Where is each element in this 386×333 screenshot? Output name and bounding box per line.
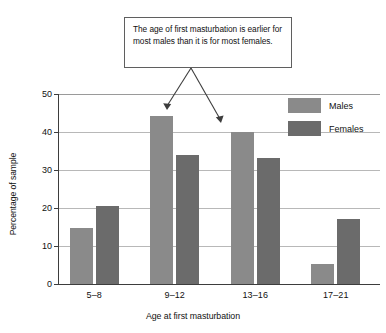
bar-females-9-12: [176, 155, 199, 284]
legend-swatch-females: [288, 121, 321, 136]
x-tick-label-9-12: 9–12: [145, 290, 205, 300]
x-axis-title: Age at first masturbation: [0, 311, 386, 321]
y-axis-title: Percentage of sample: [8, 129, 18, 259]
x-tick-label-17-21: 17–21: [306, 290, 366, 300]
callout-annotation-box: The age of first masturbation is earlier…: [124, 17, 292, 68]
x-tick-label-5-8: 5–8: [64, 290, 124, 300]
y-tick-label-10: 10: [26, 241, 52, 251]
gridline-30: [58, 170, 380, 171]
bar-females-5-8: [96, 206, 119, 284]
legend-item-females: Females: [288, 121, 364, 136]
y-tick-label-30: 30: [26, 165, 52, 175]
legend-label-males: Males: [329, 101, 353, 111]
y-tick-label-50: 50: [26, 89, 52, 99]
bar-females-13-16: [257, 158, 280, 284]
bar-males-5-8: [70, 228, 93, 284]
x-axis-line: [58, 284, 380, 285]
bar-females-17-21: [337, 219, 360, 284]
legend-swatch-males: [288, 98, 321, 113]
bar-males-13-16: [231, 132, 254, 284]
chart-legend: Males Females: [288, 98, 364, 144]
y-tick-label-20: 20: [26, 203, 52, 213]
legend-item-males: Males: [288, 98, 364, 113]
y-axis-line: [58, 94, 59, 285]
bar-chart: The age of first masturbation is earlier…: [0, 0, 386, 333]
legend-label-females: Females: [329, 124, 364, 134]
bar-males-17-21: [311, 264, 334, 284]
bar-males-9-12: [150, 116, 173, 284]
y-tick-label-40: 40: [26, 127, 52, 137]
callout-annotation-text: The age of first masturbation is earlier…: [133, 24, 284, 47]
y-tick-label-0: 0: [26, 279, 52, 289]
gridline-50: [58, 94, 380, 95]
x-tick-label-13-16: 13–16: [225, 290, 285, 300]
